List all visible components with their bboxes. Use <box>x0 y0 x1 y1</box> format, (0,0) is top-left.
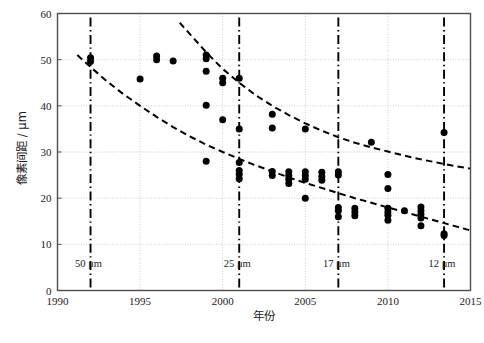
data-point <box>302 176 309 183</box>
data-point <box>203 158 210 165</box>
data-point <box>203 102 210 109</box>
x-axis-title: 年份 <box>253 309 276 323</box>
node-marker-label: 12 μm <box>429 258 456 269</box>
data-point <box>219 116 226 123</box>
x-tick-label: 1990 <box>47 295 70 307</box>
data-point <box>236 75 243 82</box>
data-point <box>87 54 94 61</box>
data-point <box>236 175 243 182</box>
data-point <box>401 207 408 214</box>
upper-bound-dashed-curve <box>180 23 471 169</box>
data-point <box>384 185 391 192</box>
figure-container: 0102030405060199019952000200520102015 50… <box>0 0 484 343</box>
data-point <box>269 172 276 179</box>
data-points <box>87 52 448 240</box>
y-tick-label: 30 <box>41 146 53 158</box>
node-vertical-lines <box>91 18 445 289</box>
pixel-pitch-scatter-chart: 0102030405060199019952000200520102015 50… <box>0 0 484 343</box>
data-point <box>285 180 292 187</box>
data-point <box>219 79 226 86</box>
y-tick-label: 50 <box>41 54 53 66</box>
lower-bound-dashed-curve <box>77 55 470 230</box>
node-marker-label: 50 μm <box>75 258 102 269</box>
y-tick-label: 10 <box>41 238 53 250</box>
x-tick-label: 2010 <box>377 295 400 307</box>
node-marker-labels: 50 μm25 μm17 μm12 μm <box>75 258 455 269</box>
data-point <box>335 207 342 214</box>
data-point <box>302 125 309 132</box>
data-point <box>203 68 210 75</box>
y-tick-label: 20 <box>41 192 53 204</box>
node-marker-label: 17 μm <box>323 258 350 269</box>
y-tick-label: 40 <box>41 100 53 112</box>
data-point <box>153 52 160 59</box>
x-tick-label: 2000 <box>212 295 235 307</box>
data-point <box>236 159 243 166</box>
data-point <box>302 195 309 202</box>
data-point <box>351 212 358 219</box>
data-point <box>318 177 325 184</box>
data-point <box>335 172 342 179</box>
data-point <box>269 111 276 118</box>
data-point <box>417 222 424 229</box>
data-point <box>441 129 448 136</box>
x-tick-label: 2015 <box>460 295 483 307</box>
data-point <box>417 215 424 222</box>
data-point <box>170 58 177 65</box>
data-point <box>384 217 391 224</box>
gridlines <box>58 14 471 291</box>
x-tick-label: 1995 <box>129 295 152 307</box>
data-point <box>236 125 243 132</box>
data-point <box>384 171 391 178</box>
y-tick-label: 60 <box>41 8 53 20</box>
axis-tick-labels: 0102030405060199019952000200520102015 <box>41 8 483 307</box>
data-point <box>335 213 342 220</box>
node-marker-label: 25 μm <box>224 258 251 269</box>
data-point <box>441 232 448 239</box>
data-point <box>137 76 144 83</box>
data-point <box>368 139 375 146</box>
data-point <box>203 52 210 59</box>
x-tick-label: 2005 <box>294 295 317 307</box>
y-axis-title: 像素间距 / μm <box>15 111 29 185</box>
data-point <box>269 124 276 131</box>
